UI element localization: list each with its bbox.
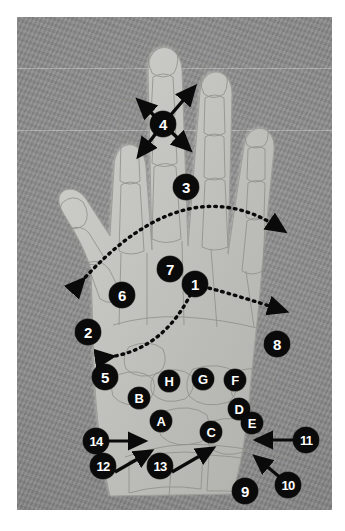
letter-marker-G[interactable]: G	[192, 368, 214, 390]
number-marker-8[interactable]: 8	[264, 331, 290, 357]
number-marker-3[interactable]: 3	[173, 174, 199, 200]
number-marker-7[interactable]: 7	[157, 256, 183, 282]
number-marker-11[interactable]: 11	[293, 427, 319, 453]
number-marker-1[interactable]: 1	[182, 271, 208, 297]
letter-marker-B[interactable]: B	[128, 387, 150, 409]
letter-marker-F[interactable]: F	[224, 369, 246, 391]
number-marker-13[interactable]: 13	[147, 453, 173, 479]
letter-marker-C[interactable]: C	[200, 421, 222, 443]
number-marker-12[interactable]: 12	[90, 453, 116, 479]
number-marker-4[interactable]: 4	[150, 111, 176, 137]
number-marker-6[interactable]: 6	[109, 282, 135, 308]
number-marker-2[interactable]: 2	[75, 319, 101, 345]
letter-marker-E[interactable]: E	[241, 412, 263, 434]
letter-marker-H[interactable]: H	[158, 370, 180, 392]
number-marker-5[interactable]: 5	[92, 364, 118, 390]
number-marker-9[interactable]: 9	[232, 478, 258, 504]
hand-radiograph-figure: 1234567891011121314ABCDEFGH	[0, 0, 345, 531]
letter-marker-A[interactable]: A	[150, 410, 172, 432]
number-marker-14[interactable]: 14	[83, 428, 109, 454]
number-marker-10[interactable]: 10	[275, 472, 301, 498]
